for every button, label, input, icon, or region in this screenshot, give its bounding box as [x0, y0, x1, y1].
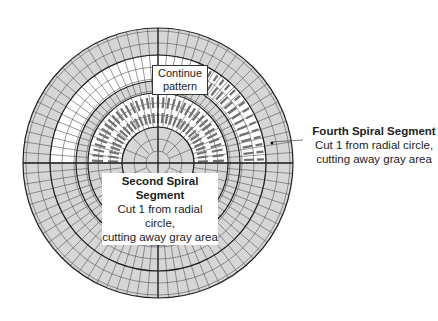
cut-mark: [153, 113, 154, 123]
continue-pattern-label: Continue pattern: [152, 65, 208, 95]
second-spiral-segment-label: Second Spiral Segment Cut 1 from radial …: [102, 173, 218, 245]
fourth-segment-title: Fourth Spiral Segment: [310, 124, 438, 138]
cut-mark: [256, 152, 263, 153]
cut-mark: [244, 153, 254, 154]
fourth-spiral-segment-label: Fourth Spiral Segment Cut 1 from radial …: [310, 124, 438, 166]
cut-mark: [198, 156, 208, 157]
cut-mark: [255, 144, 262, 145]
fourth-segment-leader-dot: [271, 142, 274, 145]
continue-line1: Continue: [155, 67, 205, 80]
second-segment-line2: cutting away gray area: [102, 230, 218, 244]
second-segment-line1: Cut 1 from radial circle,: [102, 202, 218, 230]
continue-line2: pattern: [155, 80, 205, 93]
cut-mark: [163, 97, 164, 108]
cut-mark: [213, 155, 224, 156]
cut-mark: [162, 113, 163, 123]
cut-mark: [152, 97, 153, 108]
second-segment-title: Second Spiral Segment: [102, 174, 218, 202]
cut-mark: [92, 155, 103, 156]
fourth-segment-line1: Cut 1 from radial circle,: [310, 138, 438, 152]
cut-mark: [108, 156, 118, 157]
fourth-segment-line2: cutting away gray area: [310, 152, 438, 166]
